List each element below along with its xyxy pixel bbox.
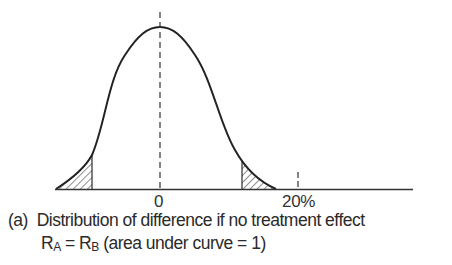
caption-line-1: (a) Distribution of difference if no tre… — [8, 210, 365, 231]
tick-label-zero: 0 — [154, 192, 163, 212]
distribution-chart — [0, 0, 452, 200]
tick-label-twenty: 20% — [282, 192, 315, 212]
caption-line-2: RA = RB (area under curve = 1) — [41, 233, 266, 254]
caption-text: Distribution of difference if no treatme… — [37, 210, 365, 230]
ra-symbol: R — [41, 233, 53, 253]
ra-subscript: A — [53, 240, 61, 254]
rb-subscript: B — [91, 240, 99, 254]
rb-symbol: R — [79, 233, 91, 253]
equals-sign: = — [61, 233, 79, 253]
caption-area-note: (area under curve = 1) — [99, 233, 266, 253]
caption-marker: (a) — [8, 210, 28, 230]
shaded-tails — [50, 100, 282, 189]
